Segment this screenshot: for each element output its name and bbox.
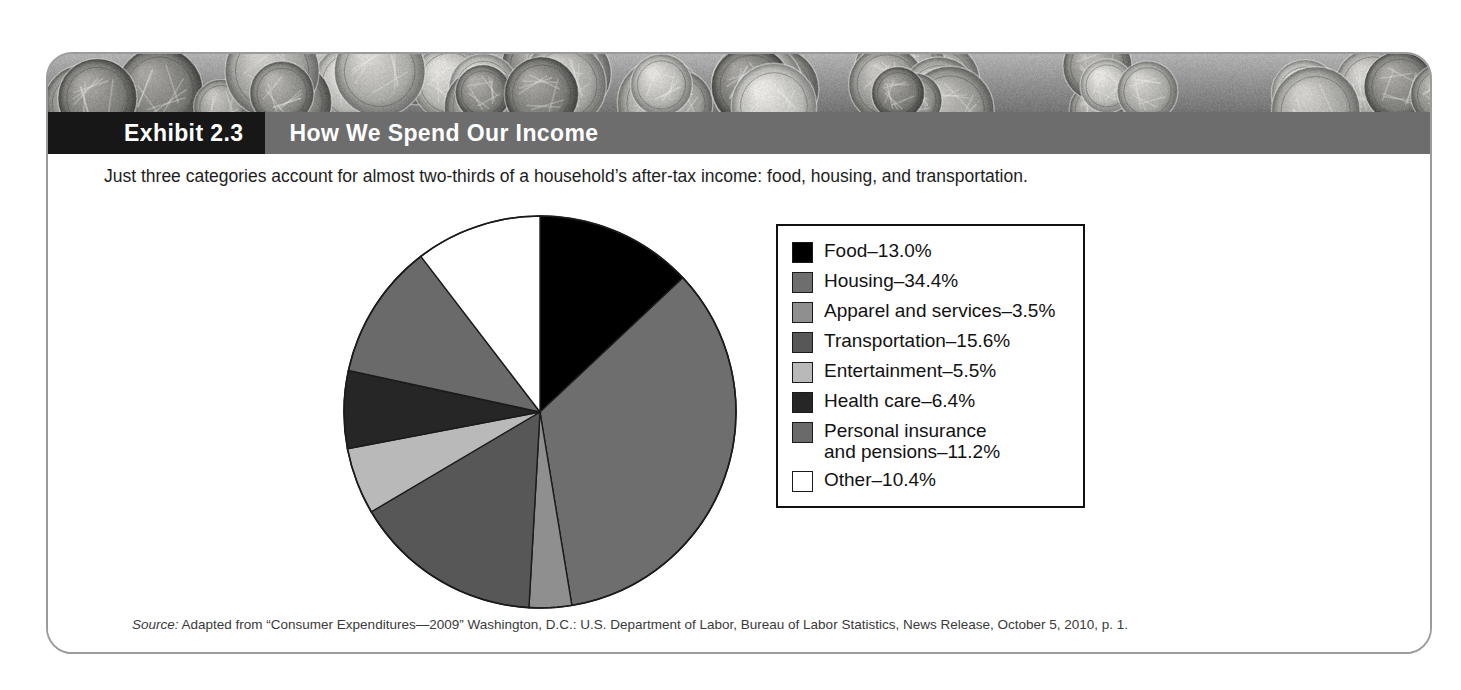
chart-legend: Food–13.0%Housing–34.4%Apparel and servi… xyxy=(776,224,1085,508)
legend-item: Transportation–15.6% xyxy=(792,330,1071,353)
legend-item: Personal insurance and pensions–11.2% xyxy=(792,420,1071,462)
legend-item: Health care–6.4% xyxy=(792,390,1071,413)
legend-item: Apparel and services–3.5% xyxy=(792,300,1071,323)
legend-item: Other–10.4% xyxy=(792,469,1071,492)
legend-swatch-icon xyxy=(792,471,813,492)
legend-swatch-icon xyxy=(792,242,813,263)
legend-label: Personal insurance and pensions–11.2% xyxy=(813,420,1000,462)
legend-item: Entertainment–5.5% xyxy=(792,360,1071,383)
source-note: Source: Adapted from “Consumer Expenditu… xyxy=(132,616,1390,634)
pie-chart-svg xyxy=(340,212,740,612)
legend-label: Housing–34.4% xyxy=(813,270,958,291)
legend-label: Entertainment–5.5% xyxy=(813,360,996,381)
exhibit-intro-text: Just three categories account for almost… xyxy=(104,164,1390,188)
legend-label: Other–10.4% xyxy=(813,469,936,490)
chart-area: Food–13.0%Housing–34.4%Apparel and servi… xyxy=(48,212,1430,632)
source-label: Source: xyxy=(132,617,179,632)
legend-label: Food–13.0% xyxy=(813,240,932,261)
exhibit-number-label: Exhibit 2.3 xyxy=(124,120,243,147)
source-text: Adapted from “Consumer Expenditures—2009… xyxy=(179,617,1128,632)
legend-swatch-icon xyxy=(792,392,813,413)
legend-swatch-icon xyxy=(792,332,813,353)
exhibit-number-block: Exhibit 2.3 xyxy=(48,112,265,154)
legend-label: Apparel and services–3.5% xyxy=(813,300,1055,321)
exhibit-body: Just three categories account for almost… xyxy=(48,154,1430,652)
exhibit-header-bar: Exhibit 2.3 How We Spend Our Income xyxy=(48,112,1430,154)
legend-item: Housing–34.4% xyxy=(792,270,1071,293)
legend-swatch-icon xyxy=(792,272,813,293)
legend-swatch-icon xyxy=(792,362,813,383)
exhibit-title-label: How We Spend Our Income xyxy=(265,120,598,147)
legend-swatch-icon xyxy=(792,422,813,443)
pie-chart xyxy=(340,212,740,612)
legend-swatch-icon xyxy=(792,302,813,323)
exhibit-frame: Exhibit 2.3 How We Spend Our Income Just… xyxy=(46,52,1432,654)
legend-label: Transportation–15.6% xyxy=(813,330,1010,351)
coin-photo-image xyxy=(48,54,1430,116)
coin-photo-banner xyxy=(48,54,1430,116)
legend-item: Food–13.0% xyxy=(792,240,1071,263)
legend-label: Health care–6.4% xyxy=(813,390,975,411)
